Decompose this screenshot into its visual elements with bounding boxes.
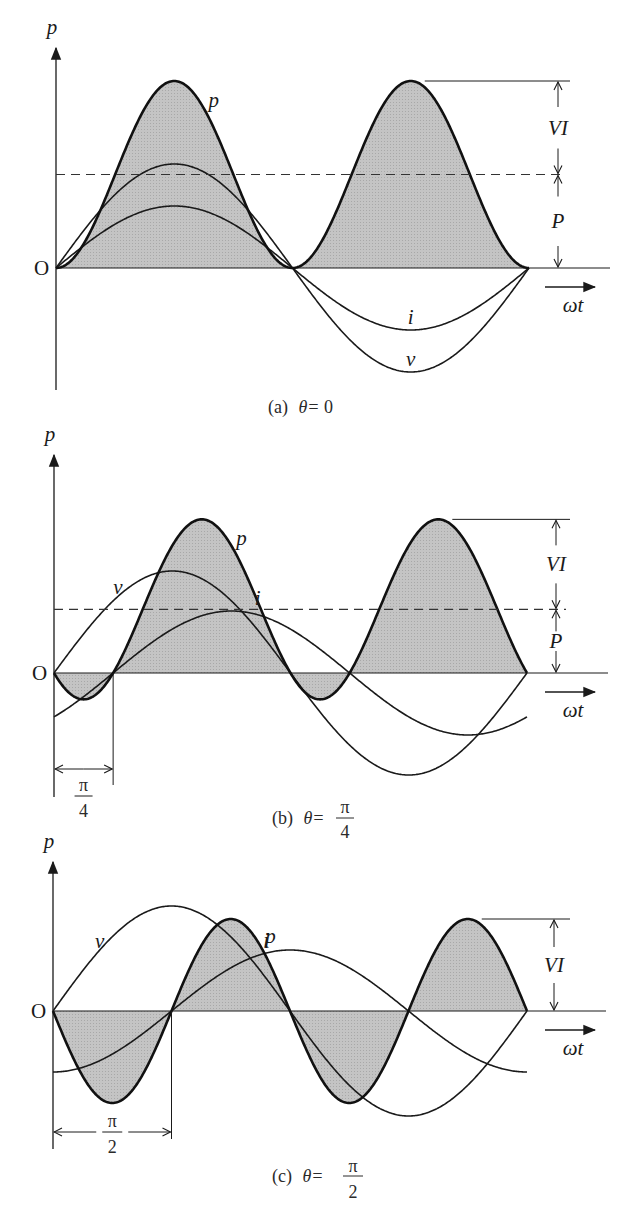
- panel-b-theta-pi-4: pOVIPωtpviπ4: [32, 422, 608, 821]
- voltage-curve-label: v: [113, 575, 123, 599]
- power-curve-label: p: [207, 88, 220, 112]
- omega-t-label: ωt: [563, 698, 585, 722]
- caption-b-den: 4: [341, 822, 350, 842]
- caption-a: (a) θ= 0: [268, 397, 333, 418]
- phase-power-figure: pOVIPωtpiv pOVIPωtpviπ4 pOVIωtpviπ2 (a) …: [0, 0, 639, 1216]
- power-shaded-area: [56, 81, 529, 268]
- panel-c-theta-pi-2: pOVIωtpviπ2: [31, 829, 606, 1157]
- phase-shift-denominator: 2: [108, 1137, 117, 1157]
- origin-label: O: [32, 661, 47, 685]
- origin-label: O: [31, 999, 46, 1023]
- vi-label: VI: [544, 953, 565, 977]
- phase-shift-numerator: π: [79, 775, 88, 795]
- current-curve-label: i: [408, 305, 414, 329]
- p-axis-label: p: [42, 829, 55, 853]
- current-curve-label: i: [263, 928, 269, 952]
- p-axis-label: p: [43, 422, 56, 446]
- vi-label: VI: [546, 552, 567, 576]
- caption-c: (c) θ=: [272, 1166, 323, 1187]
- voltage-curve-label: v: [406, 347, 416, 371]
- caption-b: (b) θ=: [272, 808, 325, 829]
- p-axis-label: p: [45, 15, 58, 39]
- caption-c-den: 2: [349, 1182, 358, 1202]
- power-curve-label: p: [234, 526, 247, 550]
- caption-c-num: π: [348, 1156, 357, 1176]
- origin-label: O: [34, 256, 49, 280]
- avg-power-label: P: [549, 629, 563, 653]
- phase-shift-denominator: 4: [79, 801, 88, 821]
- current-curve-label: i: [255, 586, 261, 610]
- omega-t-label: ωt: [563, 293, 585, 317]
- vi-label: VI: [548, 116, 569, 140]
- phase-shift-numerator: π: [108, 1111, 117, 1131]
- voltage-curve-label: v: [95, 929, 105, 953]
- omega-t-label: ωt: [563, 1036, 585, 1060]
- caption-b-num: π: [340, 797, 349, 817]
- panel-a-theta-0: pOVIPωtpiv: [34, 15, 610, 390]
- avg-power-label: P: [551, 209, 565, 233]
